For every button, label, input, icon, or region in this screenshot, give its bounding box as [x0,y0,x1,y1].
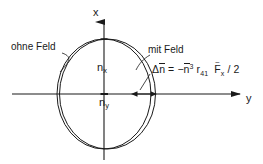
ny-subscript: y [105,101,109,110]
formula-delta: Δ [152,63,159,75]
formula-n-char: n [159,63,165,75]
refractive-index-ny-label: ny [99,97,109,108]
formula-n-cubed-char: n [184,63,190,75]
formula-F-subscript: x [221,70,225,77]
overline-bar-2 [184,63,190,64]
leader-formula [140,74,150,90]
annotation-mit-feld: mit Feld [148,45,184,55]
formula-r-subscript: 41 [200,70,208,77]
formula-F-tilde: ~F [214,64,221,75]
formula-equals: = [168,63,174,75]
formula-n-overline: n [159,64,165,75]
y-axis-label: y [246,93,252,104]
nx-subscript: x [103,66,107,75]
x-axis-label: x [93,7,99,18]
formula-n-cubed-overline: n [184,64,190,75]
tilde-accent: ~ [214,59,221,67]
delta-n-formula: Δn = −n3 r41 ~Fx / 2 [152,64,239,75]
overline-bar [159,63,165,64]
formula-exponent: 3 [190,63,194,70]
diagram-canvas [0,0,263,164]
index-ellipsoid-diagram: x y ohne Feld mit Feld nx ny Δn = −n3 r4… [0,0,263,164]
formula-divide: / 2 [227,63,239,75]
refractive-index-nx-label: nx [97,62,107,73]
annotation-ohne-feld: ohne Feld [11,42,55,52]
